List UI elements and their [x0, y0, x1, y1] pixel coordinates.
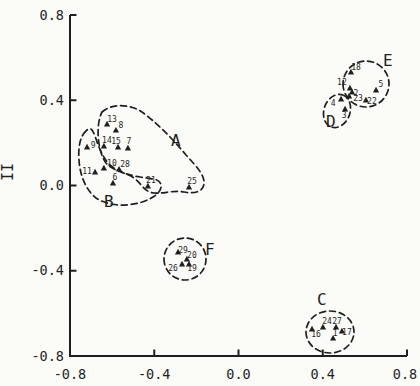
point-label-7: 7	[127, 137, 132, 146]
point-23: 23	[346, 93, 363, 103]
point-label-20: 20	[187, 251, 197, 260]
y-tick-label-0.0: 0.0	[40, 177, 64, 193]
point-13: 13	[104, 115, 117, 127]
point-label-21: 21	[146, 176, 156, 185]
x-tick-label-0.0: 0.0	[226, 366, 250, 382]
point-label-11: 11	[82, 167, 92, 176]
triangle-marker	[92, 169, 98, 175]
point-label-17: 17	[342, 328, 352, 337]
point-label-16: 16	[311, 330, 321, 339]
cluster-contours	[79, 61, 389, 353]
point-label-23: 23	[353, 94, 363, 103]
point-11: 11	[82, 167, 98, 176]
point-label-15: 15	[111, 137, 121, 146]
x-tick-label--0.8: -0.8	[54, 366, 87, 382]
scatter-plot: 0.80.40.0-0.4-0.8-0.8-0.40.00.40.8 ABCDE…	[0, 0, 420, 386]
point-25: 25	[186, 177, 197, 190]
y-axis-title: II	[0, 163, 17, 181]
triangle-marker	[338, 96, 344, 102]
point-3: 3	[342, 106, 349, 120]
point-label-19: 19	[187, 264, 197, 273]
point-19: 19	[186, 261, 197, 273]
y-tick-label-0.4: 0.4	[40, 92, 64, 108]
figure: 0.80.40.0-0.4-0.8-0.8-0.40.00.40.8 ABCDE…	[0, 0, 420, 386]
point-label-4: 4	[331, 99, 336, 108]
point-5: 5	[373, 80, 384, 93]
data-points: 1381415791028116212518122523224329202619…	[82, 63, 383, 341]
point-label-28: 28	[120, 160, 130, 169]
point-label-6: 6	[113, 173, 118, 182]
cluster-E-label: E	[383, 51, 393, 70]
cluster-B-label: B	[104, 192, 114, 211]
cluster-F-label: F	[205, 240, 215, 259]
x-tick-label-0.4: 0.4	[311, 366, 335, 382]
point-16: 16	[309, 326, 321, 339]
point-label-10: 10	[107, 159, 117, 168]
point-22: 22	[363, 97, 377, 106]
point-26: 26	[168, 261, 185, 273]
point-label-18: 18	[351, 63, 361, 72]
x-tick-label-0.8: 0.8	[393, 366, 417, 382]
point-label-1: 1	[333, 329, 338, 338]
y-tick-label-0.8: 0.8	[40, 7, 64, 23]
point-28: 28	[116, 160, 130, 172]
point-21: 21	[145, 176, 156, 189]
triangle-marker	[101, 165, 107, 171]
x-tick-label--0.4: -0.4	[138, 366, 171, 382]
point-15: 15	[111, 137, 121, 150]
triangle-marker	[84, 144, 90, 150]
point-12: 12	[337, 78, 353, 91]
y-tick-label--0.4: -0.4	[31, 262, 64, 278]
triangle-marker	[179, 261, 185, 267]
point-label-5: 5	[379, 80, 384, 89]
cluster-C-label: C	[317, 290, 327, 309]
cluster-F-contour	[164, 238, 206, 280]
point-17: 17	[339, 328, 352, 337]
point-7: 7	[125, 137, 132, 151]
point-4: 4	[331, 96, 345, 108]
point-label-22: 22	[367, 97, 377, 106]
point-label-12: 12	[337, 78, 347, 87]
point-label-25: 25	[187, 177, 197, 186]
point-label-3: 3	[342, 111, 347, 120]
point-label-26: 26	[168, 264, 178, 273]
point-1: 1	[330, 329, 338, 341]
point-6: 6	[110, 173, 118, 186]
cluster-A-label: A	[171, 131, 181, 150]
point-label-27: 27	[332, 317, 342, 326]
point-27: 27	[332, 317, 342, 330]
y-tick-label--0.8: -0.8	[31, 348, 64, 364]
point-label-9: 9	[91, 141, 96, 150]
point-label-24: 24	[322, 317, 332, 326]
point-24: 24	[320, 317, 332, 330]
point-label-13: 13	[107, 115, 117, 124]
cluster-D-label: D	[326, 112, 336, 131]
point-9: 9	[84, 141, 96, 150]
point-label-8: 8	[119, 121, 124, 130]
